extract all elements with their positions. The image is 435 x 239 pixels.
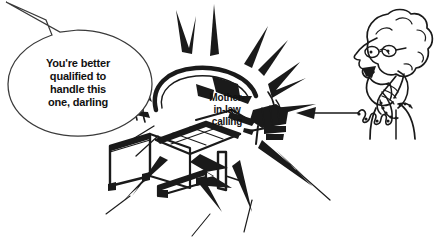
- mother-in-law-calling-label: Mother- in-law calling: [198, 92, 256, 129]
- cartoon-stage: You're better qualified to handle this o…: [0, 0, 435, 239]
- pointing-arrow: [296, 107, 358, 119]
- speech-balloon-text: You're better qualified to handle this o…: [26, 57, 130, 109]
- telephone-cord: [357, 71, 408, 125]
